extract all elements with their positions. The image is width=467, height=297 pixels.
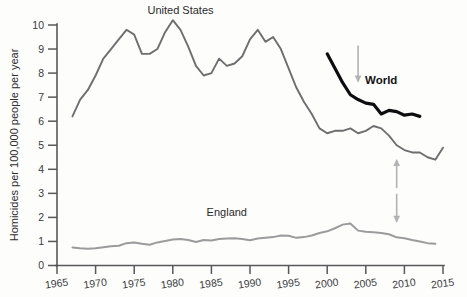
series-line-united-states [72, 20, 443, 159]
series-label-world: World [365, 74, 397, 86]
y-axis-tick-label: 5 [38, 139, 44, 151]
homicide-rates-line-chart: 012345678910 Homicides per 100,000 peopl… [0, 0, 467, 297]
y-axis-tick-label: 3 [38, 187, 44, 199]
x-axis-tick-label: 2000 [314, 276, 339, 291]
gap-arrow-down-head [393, 216, 400, 223]
x-axis-tick-label: 1965 [44, 276, 69, 291]
y-axis-tick-label: 6 [38, 115, 44, 127]
x-axis-tick-label: 1995 [276, 276, 301, 291]
pointer-arrows-group [355, 45, 400, 222]
x-axis-tick-label: 2005 [353, 276, 378, 291]
y-axis-tick-label: 2 [38, 211, 44, 223]
x-axis-tick-label: 1985 [199, 276, 224, 291]
x-axis-tick-label: 2010 [392, 276, 417, 291]
x-axis-ticks [57, 266, 443, 275]
series-label-england: England [207, 206, 247, 218]
x-axis-tick-labels: 1965197019751980198519901995200020052010… [44, 276, 455, 291]
x-axis-tick-label: 1990 [237, 276, 262, 291]
gap-arrow-up-head [393, 159, 400, 166]
world-pointer-arrow-head [355, 75, 362, 82]
series-line-england [72, 223, 435, 248]
data-series-group [72, 20, 443, 248]
y-axis-tick-label: 1 [38, 235, 44, 247]
y-axis-tick-label: 7 [38, 91, 44, 103]
y-axis-tick-label: 10 [32, 19, 44, 31]
y-axis-tick-label: 9 [38, 43, 44, 55]
series-label-united-states: United States [147, 4, 214, 16]
y-axis-group: 012345678910 Homicides per 100,000 peopl… [8, 19, 57, 272]
x-axis-tick-label: 1980 [160, 276, 185, 291]
x-axis-group: 1965197019751980198519901995200020052010… [44, 266, 455, 291]
y-axis-tick-labels: 012345678910 [32, 19, 44, 272]
y-axis-title: Homicides per 100,000 people per year [8, 48, 20, 241]
x-axis-tick-label: 1975 [121, 276, 146, 291]
x-axis-tick-label: 2015 [430, 276, 455, 291]
x-axis-tick-label: 1970 [83, 276, 108, 291]
y-axis-tick-label: 0 [38, 259, 44, 271]
y-axis-tick-label: 4 [38, 163, 44, 175]
y-axis-tick-label: 8 [38, 67, 44, 79]
chart-page: 012345678910 Homicides per 100,000 peopl… [0, 0, 467, 297]
y-axis-ticks [48, 25, 57, 266]
